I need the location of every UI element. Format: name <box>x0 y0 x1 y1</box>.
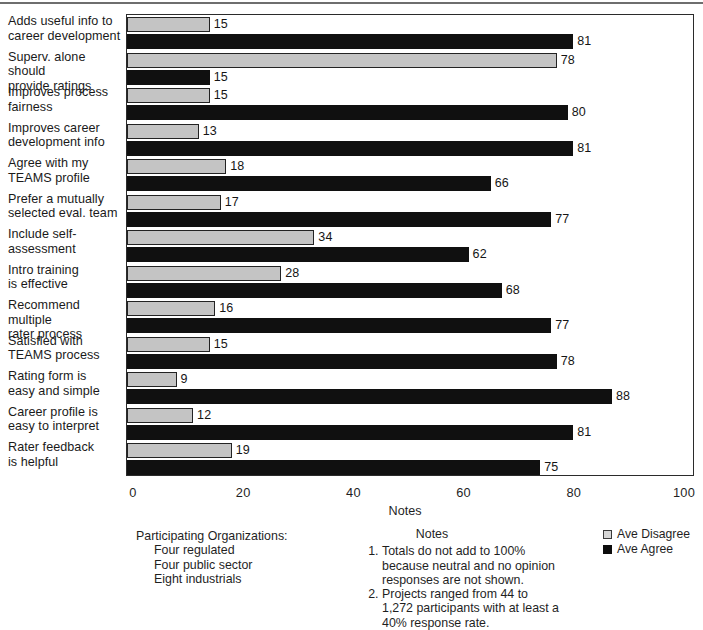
category-label-line: Agree with my <box>8 156 124 171</box>
notes-block: Notes Totals do not add to 100% because … <box>362 527 562 630</box>
category-label: Improves careerdevelopment info <box>8 121 124 150</box>
category-label-line: Superv. alone should <box>8 50 124 79</box>
category-label: Career profile iseasy to interpret <box>8 405 124 434</box>
chart-plot-area: 1581781515801381186617773462286816771578… <box>126 14 694 476</box>
bar-disagree <box>127 408 193 423</box>
bar-agree <box>127 247 469 262</box>
bar-agree <box>127 105 568 120</box>
bar-value-label: 78 <box>561 53 575 68</box>
participating-organizations-title: Participating Organizations: <box>136 529 288 543</box>
chart-bar-group: 1580 <box>127 87 693 126</box>
chart-bar-group: 1281 <box>127 407 693 446</box>
category-label-line: Include self- <box>8 227 124 242</box>
category-label-line: selected eval. team <box>8 206 124 221</box>
chart-legend: Ave DisagreeAve Agree <box>603 528 690 558</box>
bar-disagree <box>127 266 281 281</box>
bar-disagree <box>127 337 210 352</box>
category-label-line: easy and simple <box>8 384 124 399</box>
category-label-line: Career profile is <box>8 405 124 420</box>
participating-organizations-list: Four regulatedFour public sectorEight in… <box>136 543 288 586</box>
category-label-line: is effective <box>8 277 124 292</box>
chart-bar-group: 1866 <box>127 158 693 197</box>
bar-disagree <box>127 159 226 174</box>
bar-disagree <box>127 372 177 387</box>
bar-value-label: 19 <box>236 443 250 458</box>
bar-agree <box>127 318 551 333</box>
bar-value-label: 88 <box>616 389 630 404</box>
bar-agree <box>127 141 573 156</box>
chart-bars-container: 1581781515801381186617773462286816771578… <box>127 15 693 475</box>
category-label-line: Intro training <box>8 263 124 278</box>
bar-value-label: 81 <box>577 34 591 49</box>
bar-value-label: 13 <box>203 124 217 139</box>
chart-bar-group: 1975 <box>127 442 693 481</box>
bar-agree <box>127 176 491 191</box>
category-label: Rating form iseasy and simple <box>8 369 124 398</box>
category-label: Intro trainingis effective <box>8 263 124 292</box>
participating-organization-item: Four public sector <box>154 558 288 572</box>
bar-agree <box>127 460 540 475</box>
category-label-line: easy to interpret <box>8 419 124 434</box>
top-divider-rule <box>0 2 703 4</box>
bar-agree <box>127 354 557 369</box>
category-label-line: Prefer a mutually <box>8 192 124 207</box>
bar-value-label: 68 <box>506 283 520 298</box>
category-label-line: TEAMS profile <box>8 171 124 186</box>
bar-disagree <box>127 17 210 32</box>
participating-organization-item: Four regulated <box>154 543 288 557</box>
bar-agree <box>127 70 210 85</box>
bar-value-label: 15 <box>214 17 228 32</box>
chart-bar-group: 1581 <box>127 16 693 55</box>
bar-value-label: 77 <box>555 212 569 227</box>
bar-value-label: 16 <box>219 301 233 316</box>
category-label: Include self-assessment <box>8 227 124 256</box>
category-label-line: development info <box>8 135 124 150</box>
legend-entry: Ave Agree <box>603 543 690 556</box>
legend-label: Ave Disagree <box>617 528 690 541</box>
x-tick-label: 100 <box>654 485 703 501</box>
bar-value-label: 18 <box>230 159 244 174</box>
x-tick-label: 20 <box>213 485 273 501</box>
chart-bar-group: 2868 <box>127 265 693 304</box>
notes-heading: Notes <box>372 527 492 541</box>
bar-disagree <box>127 443 232 458</box>
bar-value-label: 15 <box>214 88 228 103</box>
bar-value-label: 12 <box>197 408 211 423</box>
bar-value-label: 9 <box>181 372 188 387</box>
category-label: Prefer a mutuallyselected eval. team <box>8 192 124 221</box>
category-label-line: Satisfied with <box>8 334 124 349</box>
bar-value-label: 77 <box>555 318 569 333</box>
category-label: Rater feedbackis helpful <box>8 440 124 469</box>
chart-bar-group: 988 <box>127 371 693 410</box>
x-axis-title: Notes <box>355 504 455 518</box>
bar-agree <box>127 425 573 440</box>
bar-disagree <box>127 301 215 316</box>
bar-value-label: 15 <box>214 337 228 352</box>
bar-agree <box>127 389 612 404</box>
bar-disagree <box>127 88 210 103</box>
bar-value-label: 75 <box>544 460 558 475</box>
bar-value-label: 78 <box>561 354 575 369</box>
category-label: Improves processfairness <box>8 85 124 114</box>
category-label-line: Rating form is <box>8 369 124 384</box>
bar-value-label: 17 <box>225 195 239 210</box>
x-tick-label: 0 <box>103 485 163 501</box>
bar-disagree <box>127 53 557 68</box>
bar-disagree <box>127 230 314 245</box>
participating-organization-item: Eight industrials <box>154 572 288 586</box>
bar-agree <box>127 34 573 49</box>
notes-list: Totals do not add to 100% because neutra… <box>362 544 562 630</box>
bar-value-label: 28 <box>285 266 299 281</box>
legend-entry: Ave Disagree <box>603 528 690 541</box>
bar-agree <box>127 283 502 298</box>
category-label-line: Rater feedback <box>8 440 124 455</box>
chart-bar-group: 1677 <box>127 300 693 339</box>
category-label: Adds useful info tocareer development <box>8 14 124 43</box>
bar-value-label: 15 <box>214 70 228 85</box>
category-label-line: Recommend multiple <box>8 298 124 327</box>
bar-value-label: 34 <box>318 230 332 245</box>
x-tick-label: 80 <box>544 485 604 501</box>
x-tick-label: 40 <box>323 485 383 501</box>
chart-bar-group: 1578 <box>127 336 693 375</box>
category-label-line: fairness <box>8 100 124 115</box>
